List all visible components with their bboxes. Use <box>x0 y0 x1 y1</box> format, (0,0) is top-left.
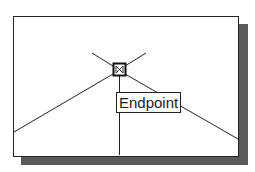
osnap-tooltip: Endpoint <box>116 92 181 113</box>
endpoint-snap-marker-icon <box>114 64 126 76</box>
crosshair-line-right <box>125 53 146 66</box>
drawing-geometry <box>0 0 255 172</box>
line-left <box>14 74 113 132</box>
crosshair-line-left <box>92 53 113 66</box>
